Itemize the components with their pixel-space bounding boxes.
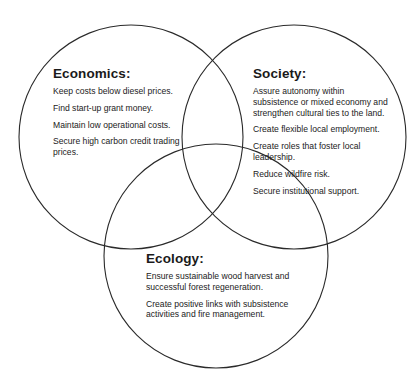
ecology-item: Create positive links with subsistence a… xyxy=(146,299,306,321)
economics-item: Keep costs below diesel prices. xyxy=(53,86,183,97)
economics-title: Economics: xyxy=(53,66,183,81)
society-set: Society: Assure autonomy within subsiste… xyxy=(253,66,388,202)
society-item: Create flexible local employment. xyxy=(253,124,388,135)
society-item: Assure autonomy within subsistence or mi… xyxy=(253,86,388,118)
society-item: Secure institutional support. xyxy=(253,186,388,197)
society-title: Society: xyxy=(253,66,388,81)
society-item: Reduce wildfire risk. xyxy=(253,169,388,180)
economics-item: Find start-up grant money. xyxy=(53,103,183,114)
economics-set: Economics: Keep costs below diesel price… xyxy=(53,66,183,164)
society-item: Create roles that foster local leadershi… xyxy=(253,141,388,163)
ecology-title: Ecology: xyxy=(146,251,306,266)
ecology-item: Ensure sustainable wood harvest and succ… xyxy=(146,271,306,293)
economics-item: Secure high carbon credit trading prices… xyxy=(53,136,183,158)
economics-item: Maintain low operational costs. xyxy=(53,120,183,131)
ecology-set: Ecology: Ensure sustainable wood harvest… xyxy=(146,251,306,326)
